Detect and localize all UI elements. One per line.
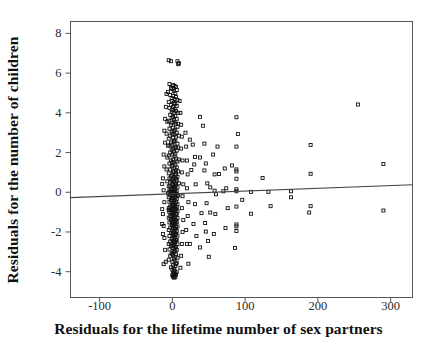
y-tick-label: 8 (40, 26, 62, 41)
scatter-plot-figure: Residuals for the number of children Res… (0, 0, 437, 343)
plot-area-border (71, 22, 413, 298)
x-tick-label: 0 (169, 299, 175, 314)
x-tick-label: 200 (309, 299, 328, 314)
y-tick-label: 4 (40, 105, 62, 120)
y-tick-label: -4 (40, 264, 62, 279)
x-tick-label: 100 (236, 299, 255, 314)
x-tick-label: -100 (88, 299, 111, 314)
y-tick-label: 2 (40, 145, 62, 160)
y-tick-label: 0 (40, 185, 62, 200)
plot-frame (71, 22, 413, 298)
x-axis-label: Residuals for the lifetime number of sex… (0, 320, 437, 338)
y-tick-label: 6 (40, 66, 62, 81)
x-tick-label: 300 (381, 299, 400, 314)
y-axis-label: Residuals for the number of children (0, 10, 26, 310)
y-tick-label: -2 (40, 224, 62, 239)
plot-canvas (0, 0, 437, 343)
